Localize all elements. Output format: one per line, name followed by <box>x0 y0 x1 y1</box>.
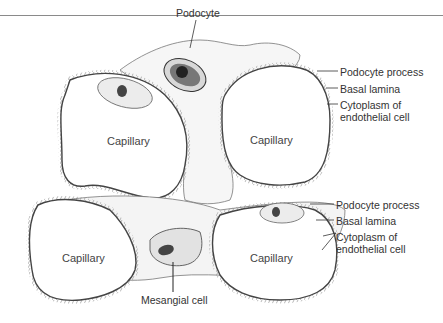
label-capillary-top-left: Capillary <box>107 135 150 147</box>
label-podocyte-process-upper: Podocyte process <box>340 66 423 78</box>
label-cytoplasm-lower-1: Cytoplasm of <box>336 231 397 243</box>
label-capillary-bottom-right: Capillary <box>250 252 293 264</box>
label-mesangial-cell: Mesangial cell <box>141 294 208 306</box>
label-basal-lamina-lower: Basal lamina <box>336 215 396 227</box>
glomerulus-illustration <box>0 0 443 323</box>
mesangial-cell <box>150 228 202 265</box>
label-cytoplasm-upper-2: endothelial cell <box>340 111 409 123</box>
capillary-top-right <box>222 66 330 185</box>
label-podocyte: Podocyte <box>176 7 220 19</box>
label-cytoplasm-upper-1: Cytoplasm of <box>340 99 401 111</box>
label-podocyte-process-lower: Podocyte process <box>336 199 419 211</box>
label-cytoplasm-lower-2: endothelial cell <box>336 243 405 255</box>
label-capillary-bottom-left: Capillary <box>62 252 105 264</box>
label-basal-lamina-upper: Basal lamina <box>340 83 400 95</box>
label-capillary-top-right: Capillary <box>250 134 293 146</box>
